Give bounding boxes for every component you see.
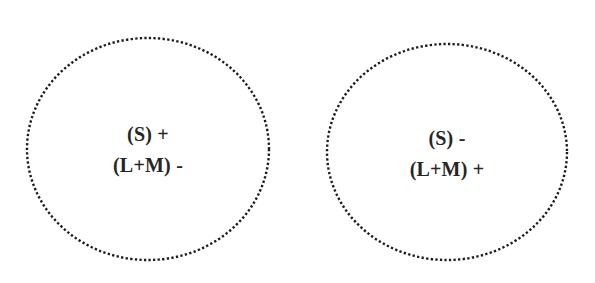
figure-canvas: (S) + (L+M) - (S) - (L+M) + [0,0,595,283]
receptive-field-s-on: (S) + (L+M) - [25,36,271,262]
s-off-label-primary: (S) - [325,128,569,148]
receptive-field-s-off: (S) - (L+M) + [325,42,569,262]
s-on-label-primary: (S) + [25,124,271,144]
s-off-label-group: (S) - (L+M) + [325,128,569,179]
s-on-label-group: (S) + (L+M) - [25,124,271,175]
s-on-label-secondary: (L+M) - [25,155,271,175]
s-off-label-secondary: (L+M) + [325,159,569,179]
